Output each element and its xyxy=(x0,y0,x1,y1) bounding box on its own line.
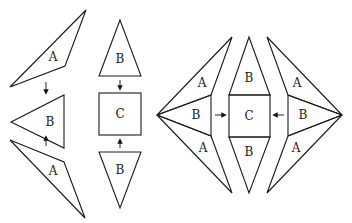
middle-column: B C B xyxy=(99,20,141,208)
label-b: B xyxy=(299,108,308,122)
label-b: B xyxy=(192,108,201,122)
label-a: A xyxy=(48,50,58,64)
label-c: C xyxy=(244,109,253,123)
label-a: A xyxy=(197,76,207,90)
label-b: B xyxy=(116,163,125,177)
right-panel-center-unit: B C B xyxy=(229,37,270,193)
label-b: B xyxy=(245,145,254,159)
triangle-b-bottom xyxy=(99,152,141,208)
triangle-a-bottom xyxy=(10,140,85,218)
label-b: B xyxy=(245,71,254,85)
label-a: A xyxy=(198,141,208,155)
label-b: B xyxy=(46,115,55,129)
quilt-diagram: A B A B C B A B A B C B xyxy=(0,0,352,223)
label-c: C xyxy=(115,107,124,121)
triangle-a-top xyxy=(10,10,86,87)
label-a: A xyxy=(292,76,302,90)
label-a: A xyxy=(48,164,58,178)
triangle-b xyxy=(11,95,64,148)
label-a: A xyxy=(291,141,301,155)
left-column: A B A xyxy=(10,10,86,218)
triangle-b-top xyxy=(229,37,270,95)
triangle-a-top xyxy=(267,37,342,115)
triangle-a-bottom xyxy=(157,115,232,193)
label-b: B xyxy=(116,52,125,66)
triangle-b xyxy=(157,95,211,136)
triangle-a-top xyxy=(157,37,232,115)
triangle-b-top xyxy=(99,20,141,76)
triangle-b xyxy=(288,95,342,136)
triangle-a-bottom xyxy=(267,115,342,193)
